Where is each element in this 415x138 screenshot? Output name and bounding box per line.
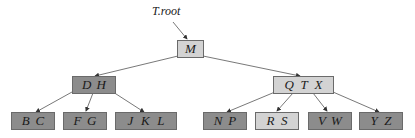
- node-key: J: [128, 113, 134, 129]
- root-pointer-arrow: [173, 22, 187, 39]
- node-key: F: [74, 113, 82, 129]
- node-leaf-jkl: J K L: [115, 112, 177, 130]
- edge-qtx-yz: [333, 92, 379, 112]
- node-leaf-np: N P: [203, 112, 247, 130]
- edge-dh-jkl: [113, 92, 144, 112]
- node-key: M: [185, 41, 196, 57]
- node-key: T: [301, 77, 308, 93]
- node-key: L: [157, 113, 164, 129]
- node-key: G: [87, 113, 96, 129]
- node-key: S: [281, 113, 288, 129]
- node-leaf-fg: F G: [63, 112, 107, 130]
- node-leaf-yz: Y Z: [359, 112, 403, 130]
- node-key: V: [318, 113, 326, 129]
- node-leaf-vw: V W: [308, 112, 352, 130]
- node-internal-left: D H: [72, 76, 116, 94]
- node-leaf-bc: B C: [11, 112, 55, 130]
- node-key: Q: [285, 77, 294, 93]
- node-root: M: [177, 40, 204, 58]
- node-key: B: [22, 113, 30, 129]
- node-key: K: [141, 113, 150, 129]
- node-internal-right: Q T X: [273, 76, 334, 94]
- node-key: D: [82, 77, 91, 93]
- edge-dh-bc: [36, 92, 72, 112]
- node-key: N: [214, 113, 223, 129]
- node-key: C: [36, 113, 45, 129]
- edge-root-right: [203, 56, 300, 76]
- node-key: W: [331, 113, 342, 129]
- node-key: Y: [371, 113, 378, 129]
- edge-qtx-rs: [277, 93, 293, 111]
- node-key: P: [228, 113, 236, 129]
- node-key: R: [267, 113, 275, 129]
- node-key: H: [97, 77, 106, 93]
- node-key: Z: [384, 113, 391, 129]
- edge-qtx-np: [227, 92, 275, 112]
- root-pointer-label: T.root: [152, 4, 180, 19]
- node-leaf-rs: R S: [255, 112, 299, 130]
- node-key: X: [314, 77, 322, 93]
- edge-dh-fg: [86, 93, 93, 111]
- edge-root-left: [95, 56, 178, 76]
- edge-qtx-vw: [313, 93, 327, 111]
